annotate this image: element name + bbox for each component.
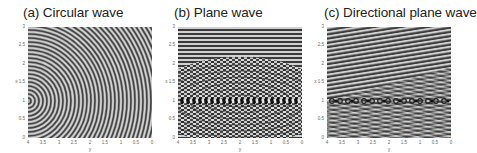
circular-wave-image (28, 27, 152, 138)
x-tick: 2.5 (218, 140, 230, 145)
x-tick: 3.5 (336, 140, 348, 145)
y-tick: x 1.5 (3, 79, 25, 84)
x-axis-label: y (235, 146, 245, 152)
directional-wave-image (327, 27, 451, 138)
panel-title: (b) Plane wave (174, 5, 263, 20)
x-tick: 3 (203, 140, 215, 145)
y-tick: 0.5 (159, 116, 175, 121)
x-tick: 3.5 (37, 140, 49, 145)
x-tick: 0 (445, 140, 457, 145)
y-tick: 1 (308, 98, 324, 103)
x-tick: 0.5 (429, 140, 441, 145)
x-tick: 1 (414, 140, 426, 145)
x-tick: 1.5 (249, 140, 261, 145)
x-tick: 1.5 (99, 140, 111, 145)
y-tick: 2.5 (308, 42, 324, 47)
x-tick: 1 (265, 140, 277, 145)
x-tick: 2 (383, 140, 395, 145)
y-tick: 3 (308, 24, 324, 29)
x-tick: 2.5 (68, 140, 80, 145)
panel-plane-wave: (b) Plane wave (150, 0, 305, 153)
y-tick: 3 (9, 24, 25, 29)
x-axis-label: y (384, 146, 394, 152)
y-axis-label: x (15, 79, 17, 84)
x-tick: 0.5 (280, 140, 292, 145)
x-tick: 4 (172, 140, 184, 145)
y-tick: 1 (9, 98, 25, 103)
x-tick: 0.5 (130, 140, 142, 145)
wave-plot-plane (178, 27, 302, 138)
y-tick: 1 (159, 98, 175, 103)
x-tick: 2.5 (367, 140, 379, 145)
panel-title: (c) Directional plane wave (324, 5, 477, 20)
y-tick: 2 (308, 61, 324, 66)
y-tick: 2 (9, 61, 25, 66)
y-tick: 0.5 (9, 116, 25, 121)
panel-circular-wave: (a) Circular wave (0, 0, 155, 153)
y-tick: x 1.5 (153, 79, 175, 84)
y-tick: 2 (159, 61, 175, 66)
y-tick: 2.5 (9, 42, 25, 47)
wave-plot-circular (28, 27, 152, 138)
x-tick: 2 (84, 140, 96, 145)
y-tick: 0.5 (308, 116, 324, 121)
x-tick: 4 (22, 140, 34, 145)
wave-plot-directional (327, 27, 451, 138)
x-tick: 3 (53, 140, 65, 145)
plane-wave-image (178, 27, 302, 138)
y-tick: x 1.5 (302, 79, 324, 84)
x-tick: 1.5 (398, 140, 410, 145)
x-tick: 2 (234, 140, 246, 145)
y-tick: 2.5 (159, 42, 175, 47)
panel-directional-plane-wave: (c) Directional plane wave (299, 0, 454, 153)
x-axis-label: y (85, 146, 95, 152)
x-tick: 4 (321, 140, 333, 145)
panel-title: (a) Circular wave (23, 5, 123, 20)
y-axis-label: x (165, 79, 167, 84)
x-tick: 3 (352, 140, 364, 145)
x-tick: 1 (115, 140, 127, 145)
x-tick: 3.5 (187, 140, 199, 145)
y-axis-label: x (314, 79, 316, 84)
y-tick: 3 (159, 24, 175, 29)
